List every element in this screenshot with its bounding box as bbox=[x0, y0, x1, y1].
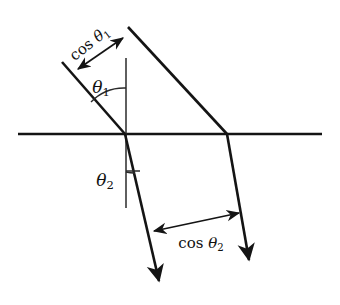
label-theta2: θ2 bbox=[96, 170, 114, 193]
label-cos-theta2-group: cos θ2 bbox=[178, 234, 223, 253]
label-cos-theta1: cos θ1 bbox=[66, 22, 113, 65]
refraction-diagram-figure: cos θ1 θ1 θ2 cos θ2 bbox=[0, 0, 340, 305]
refracted-ray-left bbox=[125, 134, 159, 281]
label-theta2-group: θ2 bbox=[96, 170, 114, 193]
label-theta1: θ1 bbox=[92, 77, 110, 100]
incident-ray-left bbox=[62, 62, 125, 134]
label-theta1-sub: 1 bbox=[102, 85, 109, 99]
refracted-ray-right bbox=[227, 134, 249, 260]
label-theta1-group: θ1 bbox=[92, 77, 110, 100]
label-theta2-symbol: θ bbox=[96, 170, 106, 190]
diagram-canvas: cos θ1 θ1 θ2 cos θ2 bbox=[0, 0, 340, 305]
label-cos-theta2-func: cos bbox=[178, 234, 208, 252]
label-cos-theta2-sub: 2 bbox=[217, 242, 223, 253]
label-cos-theta1-group: cos θ1 bbox=[66, 22, 113, 65]
measure-arrow-cos-theta2 bbox=[154, 213, 239, 231]
incident-ray-right bbox=[128, 27, 227, 134]
label-theta2-sub: 2 bbox=[106, 178, 113, 192]
label-cos-theta2: cos θ2 bbox=[178, 234, 223, 253]
label-theta1-symbol: θ bbox=[92, 77, 102, 97]
label-cos-theta2-symbol: θ bbox=[208, 234, 217, 252]
